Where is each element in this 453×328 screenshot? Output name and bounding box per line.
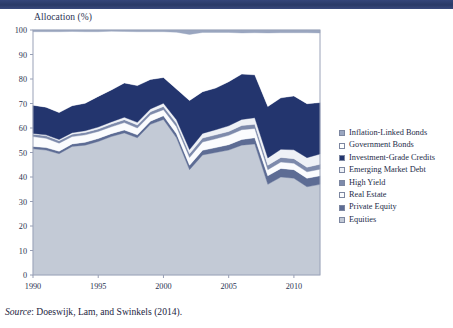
- source-note: Source: Doeswijk, Lam, and Swinkels (201…: [5, 306, 182, 317]
- y-tick-label: 70: [19, 100, 27, 109]
- legend-item[interactable]: Government Bonds: [339, 139, 453, 151]
- top-decoration-bar: [0, 0, 453, 9]
- y-tick-label: 20: [19, 222, 27, 231]
- y-tick-label: 60: [19, 124, 27, 133]
- legend-item-label: Emerging Market Debt: [349, 166, 426, 174]
- y-tick-label: 40: [19, 173, 27, 182]
- legend-item[interactable]: Emerging Market Debt: [339, 164, 453, 176]
- chart-legend: Inflation-Linked BondsGovernment BondsIn…: [339, 127, 453, 226]
- legend-item[interactable]: High Yield: [339, 177, 453, 189]
- y-tick-label: 30: [19, 198, 27, 207]
- legend-item-label: Inflation-Linked Bonds: [349, 129, 427, 137]
- legend-item[interactable]: Equities: [339, 214, 453, 226]
- legend-item[interactable]: Investment-Grade Credits: [339, 152, 453, 164]
- legend-swatch-icon: [339, 143, 345, 149]
- y-tick-label: 0: [23, 271, 27, 280]
- y-tick-label: 50: [19, 149, 27, 158]
- legend-item-label: High Yield: [349, 179, 385, 187]
- legend-item-label: Private Equity: [349, 203, 397, 211]
- x-tick-label: 1995: [90, 282, 106, 291]
- legend-item[interactable]: Real Estate: [339, 189, 453, 201]
- y-tick-label: 100: [15, 26, 27, 35]
- x-tick-label: 2005: [220, 282, 236, 291]
- x-tick-label: 2000: [155, 282, 171, 291]
- legend-swatch-icon: [339, 205, 345, 211]
- y-tick-label: 90: [19, 51, 27, 60]
- legend-swatch-icon: [339, 155, 345, 161]
- top-bar-gradient: [0, 0, 453, 9]
- legend-item-label: Real Estate: [349, 191, 387, 199]
- legend-swatch-icon: [339, 167, 345, 173]
- legend-item-label: Equities: [349, 216, 376, 224]
- y-axis-title: Allocation (%): [34, 12, 92, 22]
- source-label: Source: [5, 306, 31, 317]
- x-tick-label: 2010: [286, 282, 302, 291]
- legend-item-label: Investment-Grade Credits: [349, 154, 435, 162]
- legend-item-label: Government Bonds: [349, 141, 414, 149]
- x-tick-label: 1990: [25, 282, 41, 291]
- legend-swatch-icon: [339, 192, 345, 198]
- source-text: : Doeswijk, Lam, and Swinkels (2014).: [31, 306, 182, 317]
- legend-item[interactable]: Private Equity: [339, 201, 453, 213]
- legend-swatch-icon: [339, 217, 345, 223]
- y-tick-label: 80: [19, 75, 27, 84]
- legend-swatch-icon: [339, 130, 345, 136]
- legend-swatch-icon: [339, 180, 345, 186]
- y-tick-label: 10: [19, 247, 27, 256]
- legend-item[interactable]: Inflation-Linked Bonds: [339, 127, 453, 139]
